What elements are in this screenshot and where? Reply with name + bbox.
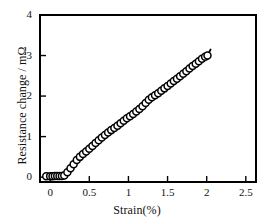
x-tick-label-5: 2.5 bbox=[231, 186, 261, 198]
y-tick-label-4: 4 bbox=[14, 8, 32, 20]
x-tick-label-0: 0 bbox=[35, 186, 65, 198]
y-tick-label-2: 2 bbox=[14, 89, 32, 101]
x-tick-label-4: 2 bbox=[192, 186, 222, 198]
y-tick-label-3: 3 bbox=[14, 49, 32, 61]
data-point bbox=[204, 52, 211, 59]
chart-figure: Strain(%) Resistance change / mΩ 00.511.… bbox=[0, 0, 274, 224]
x-tick-label-2: 1 bbox=[113, 186, 143, 198]
y-tick-label-0: 0 bbox=[14, 170, 32, 182]
x-tick-label-3: 1.5 bbox=[153, 186, 183, 198]
x-tick-label-1: 0.5 bbox=[74, 186, 104, 198]
y-tick-label-1: 1 bbox=[14, 130, 32, 142]
x-axis-title: Strain(%) bbox=[0, 203, 274, 218]
